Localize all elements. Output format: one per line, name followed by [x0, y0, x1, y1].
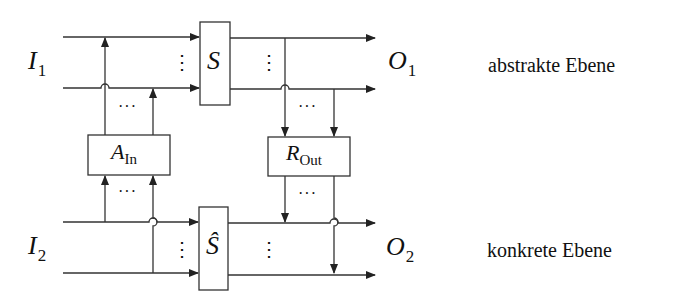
horizontal-ellipsis: ··· — [298, 185, 317, 203]
input-symbol: I — [28, 46, 37, 75]
output-label-concrete: O2 — [386, 232, 414, 262]
output-index: 2 — [406, 247, 415, 266]
retrieval-symbol: R — [286, 140, 299, 165]
input-line-abstract-bottom — [63, 84, 199, 88]
output-line-concrete-top — [228, 219, 375, 223]
abstract-system-label: S — [207, 46, 220, 76]
horizontal-ellipsis: ··· — [118, 183, 137, 201]
vertical-ellipsis: ⋮ — [172, 237, 193, 261]
input-label-concrete: I2 — [28, 231, 46, 261]
output-symbol: O — [386, 232, 405, 261]
retrieval-subscript: Out — [299, 152, 322, 168]
output-index: 1 — [408, 61, 417, 80]
input-label-abstract: I1 — [28, 46, 46, 76]
vertical-ellipsis: ⋮ — [172, 50, 193, 74]
concrete-level-label: konkrete Ebene — [487, 239, 612, 262]
output-retrieval-label: ROut — [286, 140, 322, 166]
adapter-subscript: In — [124, 151, 137, 167]
horizontal-ellipsis: ··· — [118, 98, 137, 116]
abstract-level-label: abstrakte Ebene — [488, 54, 615, 77]
output-label-abstract: O1 — [388, 46, 416, 76]
adapter-in-line-2 — [153, 176, 157, 273]
input-symbol: I — [28, 231, 37, 260]
horizontal-ellipsis: ··· — [298, 98, 317, 116]
concrete-system-label: Ŝ — [206, 231, 219, 261]
output-line-abstract-bottom — [230, 85, 375, 89]
vertical-ellipsis: ⋮ — [259, 237, 280, 261]
retrieval-out-line-2 — [334, 176, 338, 273]
input-line-concrete-top — [63, 218, 198, 222]
adapter-symbol: A — [111, 139, 124, 164]
output-symbol: O — [388, 46, 407, 75]
input-index: 1 — [38, 61, 47, 80]
input-adapter-label: AIn — [111, 139, 137, 165]
vertical-ellipsis: ⋮ — [259, 50, 280, 74]
input-index: 2 — [38, 246, 47, 265]
